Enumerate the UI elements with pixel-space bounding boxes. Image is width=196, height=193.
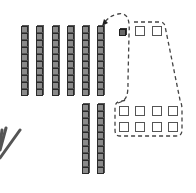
group-outline [115,22,182,136]
annotations-layer [0,0,196,193]
hand-icon [0,128,20,158]
dashed-arrow-path [104,14,129,103]
